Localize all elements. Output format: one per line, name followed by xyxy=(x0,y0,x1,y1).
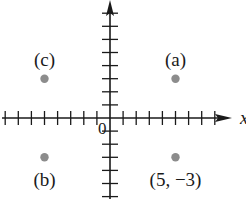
point-label: (c) xyxy=(34,49,55,71)
point-label: (b) xyxy=(33,169,55,191)
data-point: (b) xyxy=(33,153,55,191)
point-label: (5, −3) xyxy=(150,169,202,191)
point-marker xyxy=(40,153,48,161)
data-point: (c) xyxy=(34,49,55,83)
origin-label: 0 xyxy=(98,119,107,138)
point-marker xyxy=(40,75,48,83)
point-label: (a) xyxy=(165,49,186,71)
x-axis-label: x xyxy=(239,107,246,128)
data-point: (5, −3) xyxy=(150,153,202,191)
point-marker xyxy=(171,153,179,161)
coordinate-plane: 0 x (a)(b)(c)(5, −3) xyxy=(0,0,246,199)
point-marker xyxy=(171,75,179,83)
data-point: (a) xyxy=(165,49,186,83)
